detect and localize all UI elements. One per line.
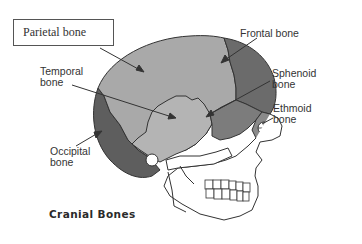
- label-occipital-bone: Occipital bone: [50, 146, 90, 168]
- teeth: [205, 180, 250, 201]
- label-ethmoid-bone: Ethmoid bone: [273, 103, 312, 125]
- cranial-bones-diagram: Parietal bone Frontal bone Temporal bone…: [0, 0, 362, 244]
- ear-opening: [146, 154, 158, 166]
- label-parietal-bone: Parietal bone: [13, 19, 114, 46]
- label-frontal-bone: Frontal bone: [240, 28, 299, 39]
- label-temporal-bone: Temporal bone: [40, 66, 83, 88]
- diagram-title: Cranial Bones: [49, 208, 136, 220]
- label-sphenoid-bone: Sphenoid bone: [272, 68, 316, 90]
